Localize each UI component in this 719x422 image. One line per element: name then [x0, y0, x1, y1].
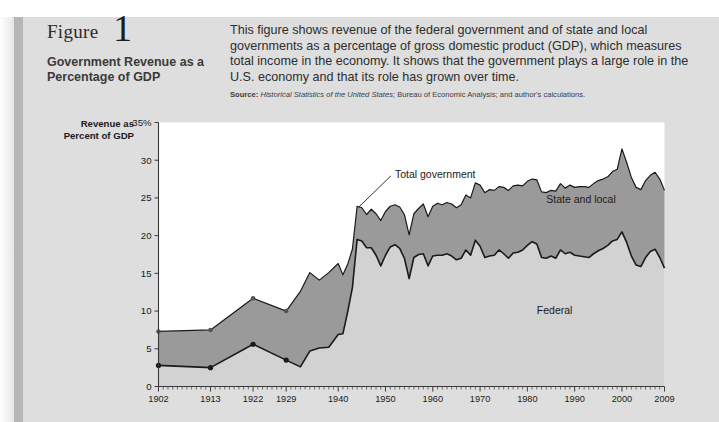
- x-tick-label: 1990: [564, 394, 584, 404]
- x-tick-label: 1970: [470, 394, 490, 404]
- marker-total: [208, 328, 213, 333]
- y-tick-label: 25: [141, 192, 152, 203]
- chart-svg: 05101520253035% 190219131922192919401950…: [0, 0, 719, 422]
- annotation-total-government: Total government: [395, 168, 476, 180]
- marker-federal: [208, 365, 213, 370]
- annotation-federal: Federal: [537, 304, 573, 316]
- figure-page: Figure 1 Government Revenue as a Percent…: [0, 0, 719, 422]
- x-tick-label: 2000: [612, 394, 632, 404]
- y-axis-ticks: 05101520253035%: [132, 117, 158, 392]
- chart-area: 05101520253035% 190219131922192919401950…: [0, 0, 719, 422]
- x-tick-label: 1922: [243, 394, 263, 404]
- marker-federal: [284, 358, 289, 363]
- annotation-state-and-local: State and local: [546, 193, 615, 205]
- y-tick-label: 20: [141, 230, 152, 241]
- marker-total: [284, 309, 289, 314]
- x-tick-label: 1960: [423, 394, 443, 404]
- x-tick-label: 1902: [148, 394, 168, 404]
- y-tick-label: 5: [146, 343, 151, 354]
- y-tick-label: 35%: [132, 117, 152, 128]
- y-tick-label: 10: [141, 305, 152, 316]
- y-tick-label: 15: [141, 268, 152, 279]
- marker-total: [251, 296, 256, 301]
- marker-federal: [250, 342, 255, 347]
- x-tick-label: 1913: [200, 394, 220, 404]
- x-tick-label: 1950: [375, 394, 395, 404]
- x-tick-label: 1929: [276, 394, 296, 404]
- x-tick-label: 1980: [517, 394, 537, 404]
- x-axis-ticks: 1902191319221929194019501960197019801990…: [148, 387, 674, 404]
- x-tick-label: 1940: [328, 394, 348, 404]
- y-tick-label: 0: [146, 381, 151, 392]
- y-tick-label: 30: [141, 155, 152, 166]
- x-tick-label: 2009: [654, 394, 674, 404]
